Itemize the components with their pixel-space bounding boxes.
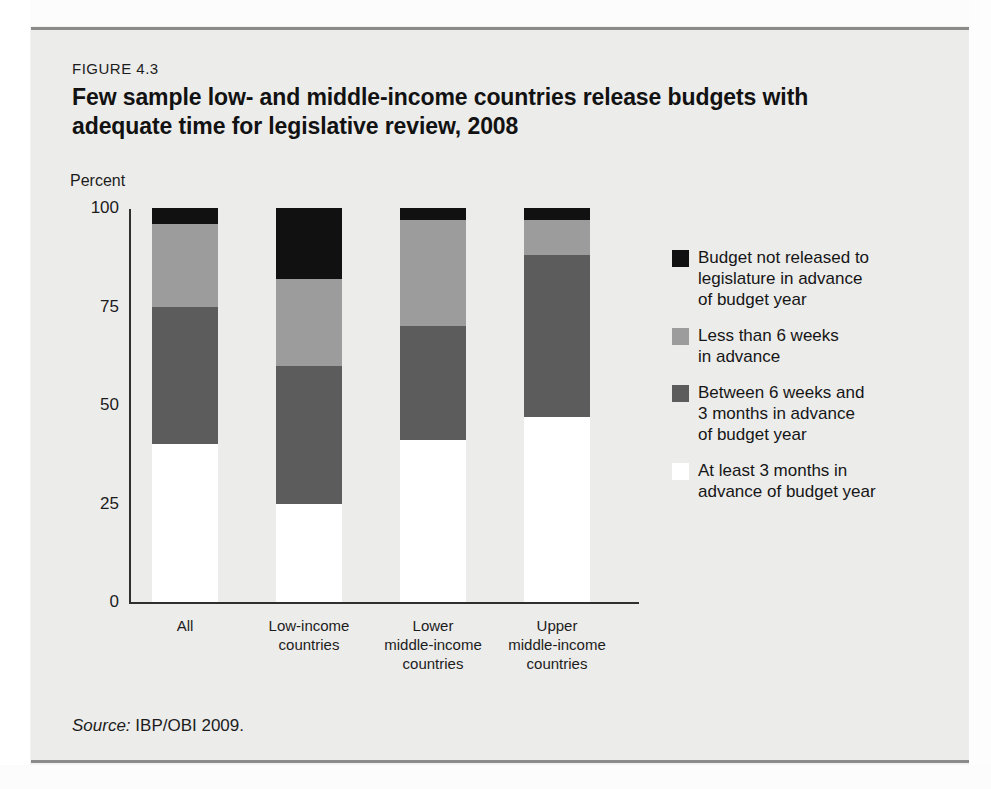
- legend-label-line: Budget not released to: [698, 247, 869, 268]
- x-axis-label-line: Upper: [482, 616, 632, 635]
- legend-label: Budget not released tolegislature in adv…: [698, 247, 869, 310]
- legend-label-line: Less than 6 weeks: [698, 325, 839, 346]
- source-text: IBP/OBI 2009.: [131, 716, 244, 735]
- x-axis-label-3: Uppermiddle-incomecountries: [482, 616, 632, 673]
- legend-label: At least 3 months inadvance of budget ye…: [698, 460, 876, 502]
- y-axis-tick-75: 75: [73, 297, 119, 317]
- figure-source: Source: IBP/OBI 2009.: [72, 716, 244, 736]
- legend-item-3: At least 3 months inadvance of budget ye…: [672, 460, 922, 502]
- legend-label-line: of budget year: [698, 424, 864, 445]
- legend-swatch-icon: [672, 328, 689, 345]
- bar-segment: [152, 208, 218, 224]
- bar-segment: [524, 220, 590, 255]
- x-axis-label-line: middle-income: [482, 635, 632, 654]
- bar-segment: [276, 279, 342, 366]
- page-margin-right: [969, 0, 991, 789]
- x-axis-line: [129, 602, 639, 604]
- bar-segment: [524, 208, 590, 220]
- bar-segment: [524, 417, 590, 602]
- legend-swatch-icon: [672, 463, 689, 480]
- legend-item-0: Budget not released tolegislature in adv…: [672, 247, 922, 310]
- legend-label-line: legislature in advance: [698, 268, 869, 289]
- bar-segment: [400, 326, 466, 440]
- bar-segment: [400, 440, 466, 602]
- bar-segment: [400, 220, 466, 326]
- legend-swatch-icon: [672, 250, 689, 267]
- bar-segment: [276, 366, 342, 504]
- bar-low-income-countries: [276, 208, 342, 602]
- figure-number: FIGURE 4.3: [72, 60, 159, 77]
- page-margin-bottom: [0, 765, 991, 789]
- y-axis-line: [129, 209, 131, 603]
- legend-label-line: 3 months in advance: [698, 403, 864, 424]
- y-axis-unit-label: Percent: [70, 172, 125, 190]
- legend-label-line: of budget year: [698, 289, 869, 310]
- legend-label-line: At least 3 months in: [698, 460, 876, 481]
- chart-plot-area: 0255075100 AllLow-incomecountriesLowermi…: [72, 200, 652, 612]
- figure-rule-bottom: [31, 760, 969, 763]
- y-axis-tick-labels: 0255075100: [72, 200, 119, 612]
- bar-segment: [524, 255, 590, 417]
- figure-rule-top: [31, 27, 969, 30]
- bar-segment: [400, 208, 466, 220]
- figure-title: Few sample low- and middle-income countr…: [72, 83, 872, 141]
- x-axis-label-line: countries: [482, 654, 632, 673]
- page-margin-top: [0, 0, 991, 26]
- y-axis-tick-25: 25: [73, 494, 119, 514]
- page-margin-left: [0, 0, 30, 789]
- chart-legend: Budget not released tolegislature in adv…: [672, 247, 922, 517]
- legend-label: Between 6 weeks and3 months in advanceof…: [698, 382, 864, 445]
- bar-all: [152, 208, 218, 602]
- legend-label-line: Between 6 weeks and: [698, 382, 864, 403]
- bar-upper-middle-income-countries: [524, 208, 590, 602]
- legend-label-line: advance of budget year: [698, 481, 876, 502]
- bar-segment: [152, 444, 218, 602]
- bar-segment: [152, 224, 218, 307]
- legend-item-2: Between 6 weeks and3 months in advanceof…: [672, 382, 922, 445]
- legend-swatch-icon: [672, 385, 689, 402]
- bar-lower-middle-income-countries: [400, 208, 466, 602]
- bar-segment: [152, 307, 218, 445]
- source-label: Source:: [72, 716, 131, 735]
- y-axis-tick-50: 50: [73, 395, 119, 415]
- scanned-page: FIGURE 4.3 Few sample low- and middle-in…: [0, 0, 991, 789]
- legend-label: Less than 6 weeksin advance: [698, 325, 839, 367]
- y-axis-tick-100: 100: [73, 198, 119, 218]
- bar-segment: [276, 208, 342, 279]
- bar-segment: [276, 504, 342, 603]
- y-axis-tick-0: 0: [73, 592, 119, 612]
- legend-item-1: Less than 6 weeksin advance: [672, 325, 922, 367]
- legend-label-line: in advance: [698, 346, 839, 367]
